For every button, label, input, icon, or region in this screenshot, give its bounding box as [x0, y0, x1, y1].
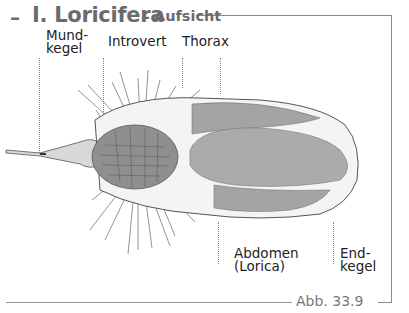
mouth-cone-shape [6, 140, 100, 168]
loricifera-illustration [0, 0, 409, 313]
figure-caption: Abb. 33.9 [296, 293, 363, 309]
